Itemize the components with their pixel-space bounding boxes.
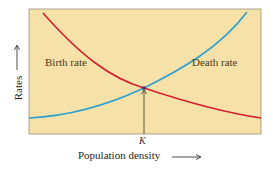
- logistic-rates-diagram: [0, 0, 273, 174]
- plot-area: [29, 9, 261, 134]
- birth-rate-label: Birth rate: [45, 56, 87, 68]
- y-axis-label: Rates: [12, 68, 24, 108]
- k-label: K: [139, 135, 146, 146]
- death-rate-label: Death rate: [192, 56, 238, 68]
- x-axis-label: Population density: [78, 149, 160, 161]
